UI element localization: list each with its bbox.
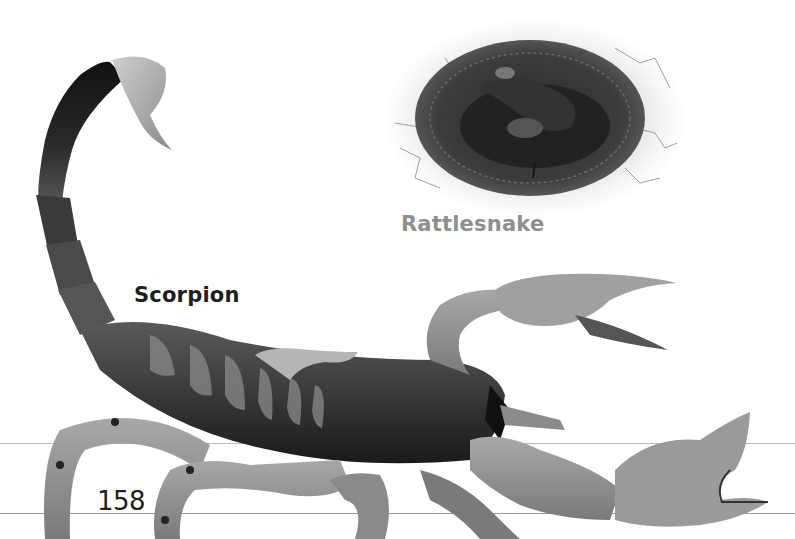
rattlesnake-label: Rattlesnake [401, 212, 544, 236]
scorpion-photo [0, 0, 795, 539]
page-number: 158 [97, 486, 145, 516]
book-page: Scorpion Rattlesnake 158 [0, 0, 795, 539]
scorpion-label: Scorpion [134, 283, 240, 307]
